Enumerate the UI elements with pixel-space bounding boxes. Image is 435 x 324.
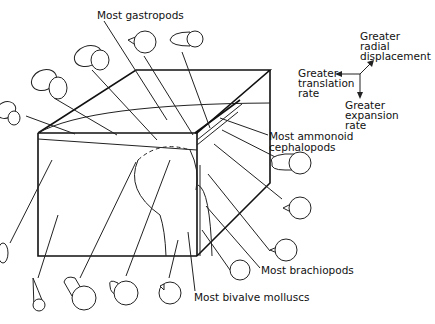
legend-expansion: Greater expansion rate	[345, 100, 399, 130]
shell-icon	[64, 277, 96, 310]
shell-icon	[170, 31, 203, 47]
shell-icon	[128, 31, 156, 53]
label-ammonoids-line1: Most ammonoid	[269, 131, 353, 141]
legend-radial-line3: displacement	[360, 51, 431, 61]
label-ammonoids-line2: cephalopods	[269, 142, 336, 152]
shell-icon	[110, 281, 138, 305]
shell-icon	[0, 99, 20, 125]
legend-translation: Greater translation rate	[298, 68, 354, 98]
shell-icon	[28, 65, 67, 99]
shell-icon	[230, 260, 250, 280]
label-bivalves: Most bivalve molluscs	[194, 292, 309, 302]
shell-icon	[0, 243, 8, 263]
shell-icon	[271, 152, 311, 174]
shell-icon	[71, 42, 109, 70]
cube	[38, 70, 270, 256]
legend-translation-line3: rate	[298, 88, 354, 98]
shell-icon	[270, 239, 297, 261]
shell-icon	[283, 197, 311, 219]
leader-lines	[10, 21, 287, 291]
legend-radial: Greater radial displacement	[360, 31, 431, 61]
legend-expansion-line3: rate	[345, 120, 399, 130]
shell-icon	[159, 282, 181, 304]
shell-icon	[33, 278, 45, 311]
label-gastropods: Most gastropods	[97, 10, 184, 20]
label-brachiopods: Most brachiopods	[261, 265, 354, 275]
